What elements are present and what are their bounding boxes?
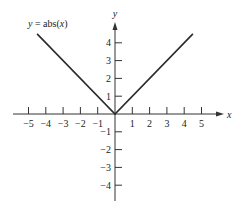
plot-canvas: −5−4−3−2−1123454321−1−2−3−4yxy = abs(x)	[0, 0, 242, 208]
y-tick-label: 1	[106, 91, 111, 102]
x-tick-label: −5	[23, 118, 34, 129]
x-tick-label: 4	[182, 118, 187, 129]
x-tick-label: −2	[75, 118, 86, 129]
y-tick-label: 2	[106, 73, 111, 84]
x-tick-label: −3	[58, 118, 69, 129]
x-tick-label: 1	[130, 118, 135, 129]
y-axis-label: y	[112, 8, 118, 19]
x-tick-label: 2	[147, 118, 152, 129]
chart-title: y = abs(x)	[27, 18, 68, 30]
y-tick-label: −3	[100, 162, 111, 173]
y-tick-label: −1	[100, 126, 111, 137]
x-axis-arrow-icon	[216, 112, 224, 117]
x-tick-label: 3	[164, 118, 169, 129]
y-tick-label: −4	[100, 180, 111, 191]
axis-labels: −5−4−3−2−1123454321−1−2−3−4yxy = abs(x)	[23, 8, 232, 191]
x-tick-label: 5	[199, 118, 204, 129]
y-tick-label: 3	[106, 55, 111, 66]
abs-function-plot: −5−4−3−2−1123454321−1−2−3−4yxy = abs(x)	[0, 0, 242, 208]
y-axis-arrow-icon	[113, 22, 118, 30]
x-axis-label: x	[226, 109, 232, 120]
y-tick-label: −2	[100, 144, 111, 155]
y-tick-label: 4	[106, 37, 111, 48]
x-tick-label: −4	[40, 118, 51, 129]
